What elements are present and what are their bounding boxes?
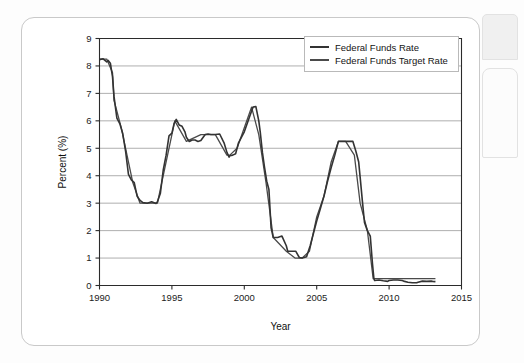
legend-label: Federal Funds Target Rate	[335, 55, 448, 66]
y-axis-title: Percent (%)	[57, 136, 68, 189]
legend-label: Federal Funds Rate	[335, 42, 419, 53]
grid-lines	[100, 66, 462, 258]
y-tick-label-2: 2	[86, 225, 91, 236]
y-tick-label-9: 9	[86, 33, 91, 44]
series-line-federal-funds-rate	[100, 59, 436, 283]
line-swatch-icon	[310, 46, 329, 48]
x-tick-label-1995: 1995	[161, 292, 182, 303]
y-tick-label-4: 4	[86, 170, 91, 181]
y-tick-label-8: 8	[86, 60, 91, 71]
line-swatch-icon	[310, 59, 329, 61]
y-tick-label-5: 5	[86, 143, 91, 154]
x-tick-label-2005: 2005	[306, 292, 327, 303]
data-series	[100, 59, 436, 283]
x-tick-label-2015: 2015	[451, 292, 472, 303]
axis-lines	[100, 39, 462, 286]
y-tick-label-6: 6	[86, 115, 91, 126]
x-axis-ticks: 199019952000200520102015	[89, 286, 472, 303]
y-tick-label-7: 7	[86, 88, 91, 99]
x-tick-label-2000: 2000	[234, 292, 255, 303]
y-axis-ticks: 0123456789	[86, 33, 99, 291]
x-tick-label-1990: 1990	[89, 292, 110, 303]
x-tick-label-2010: 2010	[379, 292, 400, 303]
chart-legend: Federal Funds Rate Federal Funds Target …	[304, 36, 459, 72]
y-tick-label-0: 0	[86, 280, 91, 291]
y-tick-label-1: 1	[86, 252, 91, 263]
y-tick-label-3: 3	[86, 198, 91, 209]
x-axis-title: Year	[270, 321, 291, 332]
legend-item-federal-funds-target-rate: Federal Funds Target Rate	[310, 54, 453, 66]
legend-item-federal-funds-rate: Federal Funds Rate	[310, 41, 453, 53]
federal-funds-rate-chart: 0123456789 199019952000200520102015 Perc…	[0, 0, 524, 363]
plot-frame	[100, 39, 462, 286]
series-line-federal-funds-target-rate	[100, 59, 436, 279]
